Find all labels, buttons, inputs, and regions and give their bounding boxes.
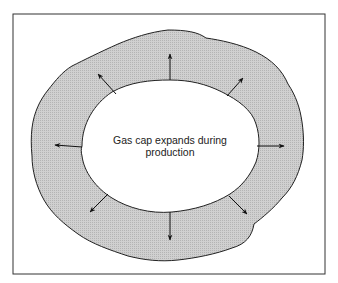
gas-cap-label: Gas cap expands during production — [100, 134, 240, 158]
caption-line-2: production — [100, 146, 240, 158]
caption-line-1: Gas cap expands during — [100, 134, 240, 146]
